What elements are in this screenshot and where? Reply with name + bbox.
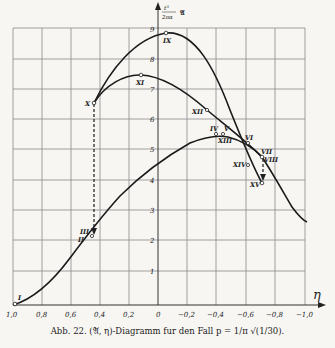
svg-text:VII: VII	[261, 148, 273, 156]
point-labels: I II III X IX XI XII IV V XIII VI VII VI…	[17, 37, 279, 302]
svg-text:XIII: XIII	[217, 137, 233, 145]
svg-text:VI: VI	[245, 134, 254, 142]
middle-curve	[94, 75, 262, 157]
svg-text:VIII: VIII	[264, 156, 279, 164]
points	[13, 31, 264, 306]
svg-text:1: 1	[150, 268, 154, 276]
svg-text:9: 9	[150, 26, 155, 34]
svg-text:I: I	[17, 294, 22, 302]
svg-text:t³: t³	[164, 4, 169, 11]
x-axis-label: η	[313, 287, 321, 302]
svg-text:XII: XII	[191, 108, 204, 116]
svg-text:0,2: 0,2	[123, 311, 135, 319]
svg-text:0,8: 0,8	[36, 311, 48, 319]
svg-text:XIV: XIV	[232, 161, 247, 169]
svg-text:2: 2	[149, 237, 155, 245]
svg-text:−0,4: −0,4	[207, 311, 224, 319]
svg-text:0: 0	[156, 311, 161, 319]
svg-text:−0,2: −0,2	[178, 311, 196, 319]
diagram: 9 8 7 6 5 4 3 2 1 1,0 0,8 0,6 0,4 0,2 0 …	[0, 0, 335, 348]
svg-text:IX: IX	[162, 37, 172, 45]
svg-text:−0,8: −0,8	[266, 311, 284, 319]
svg-text:5: 5	[150, 146, 155, 154]
svg-text:IV: IV	[209, 125, 219, 133]
svg-text:XV: XV	[249, 181, 261, 189]
grid-vertical	[13, 28, 305, 305]
svg-text:2πα: 2πα	[161, 14, 173, 20]
svg-text:III: III	[79, 228, 90, 236]
svg-text:𝔄: 𝔄	[179, 8, 185, 17]
x-tick-labels: 1,0 0,8 0,6 0,4 0,2 0 −0,2 −0,4 −0,6 −0,…	[6, 311, 314, 319]
svg-text:0,6: 0,6	[65, 311, 77, 319]
svg-text:X: X	[84, 100, 91, 108]
y-tick-labels: 9 8 7 6 5 4 3 2 1	[149, 26, 155, 276]
svg-text:7: 7	[150, 86, 155, 94]
figure-caption: Abb. 22. (𝔄, η)-Diagramm fur den Fall p …	[0, 326, 335, 337]
svg-text:−1,0: −1,0	[296, 311, 314, 319]
svg-text:−0,6: −0,6	[237, 311, 255, 319]
svg-text:4: 4	[149, 177, 154, 185]
svg-text:0,4: 0,4	[94, 311, 105, 319]
svg-text:XI: XI	[135, 79, 145, 87]
svg-text:6: 6	[150, 116, 155, 124]
svg-text:3: 3	[150, 207, 155, 215]
svg-text:8: 8	[150, 56, 155, 64]
y-axis-label: t³ 2πα 𝔄	[161, 4, 185, 20]
svg-text:II: II	[77, 236, 85, 244]
svg-text:1,0: 1,0	[6, 311, 18, 319]
